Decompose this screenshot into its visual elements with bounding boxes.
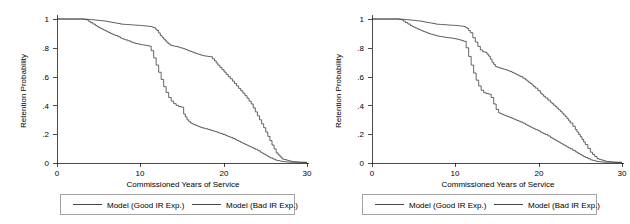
right-y-tick-label-0_2: .2 bbox=[357, 130, 364, 139]
right-x-axis-title: Commissioned Years of Service bbox=[442, 180, 555, 189]
left-panel: Retention Probability 1 .8 .6 .4 .2 0 bbox=[0, 0, 315, 224]
left-y-tick-label-0_6: .6 bbox=[42, 73, 49, 82]
left-series-good-ir-exp bbox=[57, 19, 307, 162]
right-legend-label-bad: Model (Bad IR Exp.) bbox=[528, 201, 600, 210]
figure-container: Retention Probability 1 .8 .6 .4 .2 0 bbox=[0, 0, 630, 224]
right-x-tick-label-30: 30 bbox=[618, 169, 627, 178]
left-y-tick-label-0_2: .2 bbox=[42, 130, 49, 139]
right-series-bad-ir-exp bbox=[372, 19, 622, 162]
left-x-tick-label-30: 30 bbox=[303, 169, 312, 178]
left-panel-svg: Retention Probability 1 .8 .6 .4 .2 0 bbox=[0, 0, 315, 224]
left-x-tick-label-10: 10 bbox=[136, 169, 145, 178]
right-x-tick-label-10: 10 bbox=[451, 169, 460, 178]
left-x-tick-label-0: 0 bbox=[55, 169, 60, 178]
right-y-tick-label-1: 1 bbox=[360, 15, 365, 24]
right-panel: Retention Probability 1 .8 .6 .4 .2 0 0 … bbox=[315, 0, 630, 224]
left-y-tick-label-0_8: .8 bbox=[42, 44, 49, 53]
right-x-tick-label-0: 0 bbox=[370, 169, 375, 178]
right-y-tick-label-0: 0 bbox=[360, 159, 365, 168]
right-panel-svg: Retention Probability 1 .8 .6 .4 .2 0 0 … bbox=[315, 0, 630, 224]
left-y-tick-label-0_4: .4 bbox=[42, 102, 49, 111]
left-y-tick-label-0: 0 bbox=[45, 159, 50, 168]
right-series-good-ir-exp bbox=[372, 19, 622, 162]
left-legend-label-good: Model (Good IR Exp.) bbox=[107, 201, 185, 210]
right-y-axis-title: Retention Probability bbox=[334, 54, 343, 128]
right-x-tick-label-20: 20 bbox=[535, 169, 544, 178]
right-y-tick-label-0_4: .4 bbox=[357, 102, 364, 111]
right-y-tick-label-0_6: .6 bbox=[357, 73, 364, 82]
left-series-bad-ir-exp bbox=[57, 19, 307, 162]
left-legend-label-bad: Model (Bad IR Exp.) bbox=[226, 201, 298, 210]
right-y-tick-label-0_8: .8 bbox=[357, 44, 364, 53]
right-legend-label-good: Model (Good IR Exp.) bbox=[409, 201, 487, 210]
left-y-tick-label-1: 1 bbox=[45, 15, 50, 24]
left-y-axis-title: Retention Probability bbox=[19, 54, 28, 128]
left-x-tick-label-20: 20 bbox=[220, 169, 229, 178]
left-x-axis-title: Commissioned Years of Service bbox=[127, 180, 240, 189]
